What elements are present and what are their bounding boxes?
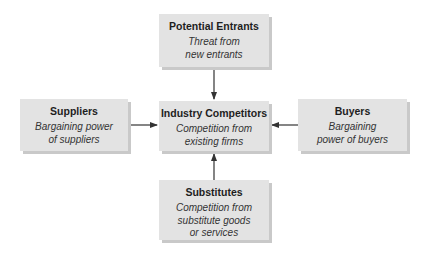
- potential-entrants-description: Threat from new entrants: [159, 36, 269, 61]
- substitutes-title: Substitutes: [159, 186, 269, 199]
- industry-competitors-title: Industry Competitors: [159, 107, 269, 120]
- industry-competitors-box: Industry Competitors Competition from ex…: [159, 101, 269, 151]
- substitutes-box: Substitutes Competition from substitute …: [159, 180, 269, 240]
- suppliers-title: Suppliers: [20, 105, 128, 118]
- suppliers-box: Suppliers Bargaining power of suppliers: [20, 99, 128, 151]
- buyers-title: Buyers: [298, 105, 407, 118]
- substitutes-description: Competition from substitute goods or ser…: [159, 202, 269, 240]
- potential-entrants-title: Potential Entrants: [159, 20, 269, 33]
- industry-competitors-description: Competition from existing firms: [159, 123, 269, 148]
- potential-entrants-box: Potential Entrants Threat from new entra…: [159, 14, 269, 67]
- suppliers-description: Bargaining power of suppliers: [20, 121, 128, 146]
- buyers-box: Buyers Bargaining power of buyers: [298, 99, 407, 151]
- buyers-description: Bargaining power of buyers: [298, 121, 407, 146]
